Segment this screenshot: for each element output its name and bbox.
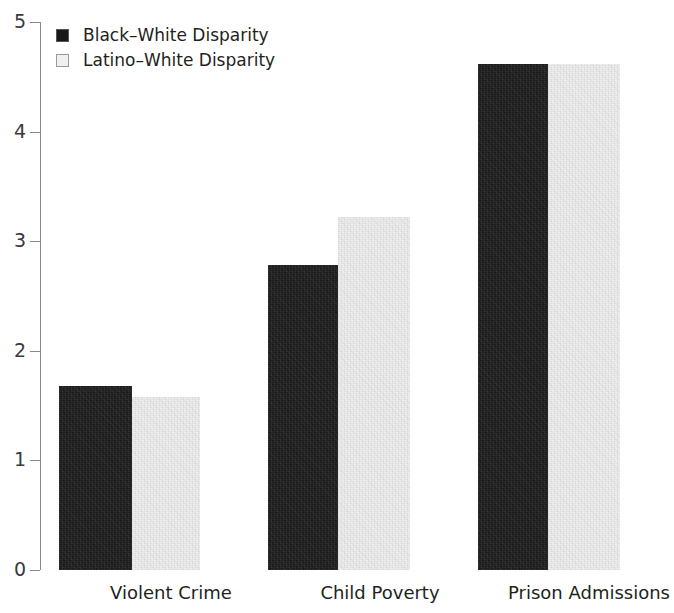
y-tick-mark (30, 22, 40, 23)
bar-latino-white-1 (338, 217, 410, 570)
light-square-swatch-icon (56, 54, 69, 67)
legend-item-black-white[interactable]: Black–White Disparity (56, 24, 275, 46)
y-tick-mark (30, 460, 40, 461)
dark-square-swatch-icon (56, 29, 69, 42)
y-tick-mark (30, 351, 40, 352)
bar-black-white-2 (478, 64, 548, 570)
bar-latino-white-2 (548, 64, 620, 570)
y-tick-label: 2 (2, 341, 26, 360)
y-tick-label: 0 (2, 560, 26, 579)
y-tick-mark (30, 570, 40, 571)
legend-label-black-white: Black–White Disparity (83, 27, 269, 44)
legend-label-latino-white: Latino–White Disparity (83, 52, 275, 69)
category-label-0: Violent Crime (61, 583, 281, 603)
y-tick-label: 1 (2, 450, 26, 469)
bar-black-white-0 (59, 386, 132, 570)
y-tick-label: 4 (2, 122, 26, 141)
legend: Black–White Disparity Latino–White Dispa… (56, 24, 275, 74)
y-tick-label: 3 (2, 231, 26, 250)
y-tick-mark (30, 132, 40, 133)
bar-black-white-1 (268, 265, 338, 570)
category-label-1: Child Poverty (270, 583, 490, 603)
plot-area (41, 22, 620, 570)
y-tick-label: 5 (2, 12, 26, 31)
y-tick-mark (30, 241, 40, 242)
bar-latino-white-0 (132, 397, 200, 570)
category-label-2: Prison Admissions (479, 583, 674, 603)
legend-item-latino-white[interactable]: Latino–White Disparity (56, 49, 275, 71)
